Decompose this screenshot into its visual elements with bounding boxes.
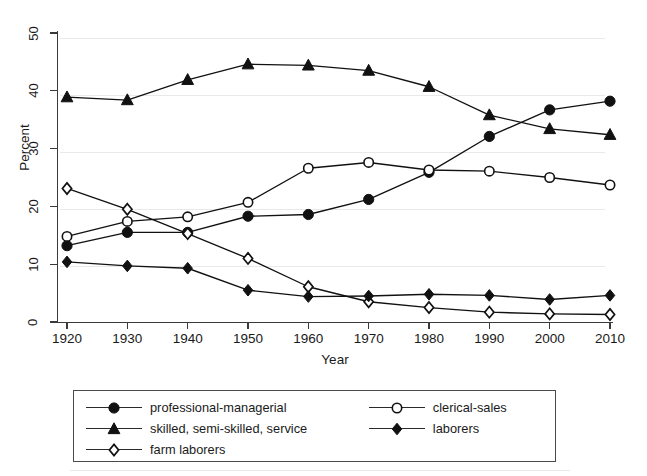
legend-item[interactable]: clerical-sales xyxy=(363,397,555,418)
data-point-filled-circle xyxy=(62,241,72,251)
legend-grid: professional-managerialclerical-salesski… xyxy=(74,391,555,461)
data-point-filled-circle xyxy=(484,131,494,141)
data-point-open-diamond xyxy=(62,183,71,194)
chart-figure: 01020304050 1920193019401950196019701980… xyxy=(0,0,647,476)
data-point-open-circle xyxy=(364,158,373,167)
legend-marker-filled-circle xyxy=(105,400,123,416)
legend-key-marker xyxy=(105,400,123,416)
data-point-open-diamond xyxy=(109,444,118,455)
legend-label: skilled, semi-skilled, service xyxy=(144,421,307,436)
data-point-open-circle xyxy=(605,180,614,189)
legend-key-marker xyxy=(388,400,406,416)
series-3 xyxy=(62,158,614,241)
data-point-filled-circle xyxy=(243,211,253,221)
data-point-open-diamond xyxy=(605,309,614,320)
data-point-open-diamond xyxy=(243,253,252,264)
data-point-open-circle xyxy=(485,166,494,175)
legend-label: professional-managerial xyxy=(144,400,287,415)
data-point-filled-triangle xyxy=(61,91,73,102)
data-point-open-diamond xyxy=(545,308,554,319)
legend-marker-open-diamond xyxy=(105,442,123,458)
data-point-open-diamond xyxy=(424,302,433,313)
data-point-filled-diamond xyxy=(485,290,495,302)
series-line xyxy=(67,101,610,246)
data-point-filled-circle xyxy=(303,209,313,219)
data-point-filled-circle xyxy=(545,105,555,115)
data-point-filled-diamond xyxy=(243,284,253,296)
legend-key xyxy=(84,421,144,437)
data-point-filled-triangle xyxy=(242,58,254,69)
data-point-filled-triangle xyxy=(483,109,495,120)
series-1 xyxy=(61,58,616,139)
series-2 xyxy=(62,183,614,320)
data-point-filled-triangle xyxy=(302,59,314,70)
data-point-filled-diamond xyxy=(392,423,402,435)
series-line xyxy=(67,64,610,135)
legend-marker-filled-diamond xyxy=(388,421,406,437)
data-point-filled-diamond xyxy=(424,288,434,300)
legend-item[interactable]: farm laborers xyxy=(74,439,363,460)
data-point-open-circle xyxy=(392,403,401,412)
legend-key xyxy=(84,400,144,416)
chart-legend: professional-managerialclerical-salesski… xyxy=(73,390,556,462)
legend-key xyxy=(367,400,427,416)
data-point-filled-circle xyxy=(109,402,119,412)
legend-row: farm laborers xyxy=(74,439,555,460)
legend-key-marker xyxy=(105,442,123,458)
legend-item[interactable]: laborers xyxy=(363,418,555,439)
data-point-open-circle xyxy=(183,212,192,221)
data-point-filled-triangle xyxy=(108,422,120,433)
series-0 xyxy=(62,96,615,251)
data-point-open-circle xyxy=(424,165,433,174)
legend-key xyxy=(367,421,427,437)
data-point-filled-diamond xyxy=(304,291,314,303)
legend-key xyxy=(84,442,144,458)
data-point-filled-diamond xyxy=(605,290,615,302)
legend-row: professional-managerialclerical-sales xyxy=(74,397,555,418)
data-point-open-circle xyxy=(304,164,313,173)
data-point-open-diamond xyxy=(123,204,132,215)
legend-key-marker xyxy=(388,421,406,437)
legend-marker-open-circle xyxy=(388,400,406,416)
data-point-filled-diamond xyxy=(545,294,555,306)
legend-label: clerical-sales xyxy=(427,400,507,415)
legend-row: skilled, semi-skilled, servicelaborers xyxy=(74,418,555,439)
legend-label: farm laborers xyxy=(144,442,225,457)
legend-label: laborers xyxy=(427,421,479,436)
data-point-open-circle xyxy=(123,217,132,226)
series-4 xyxy=(62,256,615,305)
legend-marker-filled-triangle xyxy=(105,421,123,437)
data-point-open-circle xyxy=(243,198,252,207)
data-point-filled-diamond xyxy=(123,260,133,272)
series-line xyxy=(67,162,610,236)
data-point-open-circle xyxy=(545,173,554,182)
data-point-filled-diamond xyxy=(62,256,72,268)
legend-item[interactable]: professional-managerial xyxy=(74,397,363,418)
data-point-open-circle xyxy=(62,232,71,241)
data-point-filled-circle xyxy=(364,194,374,204)
data-point-filled-circle xyxy=(122,227,132,237)
data-point-open-diamond xyxy=(485,307,494,318)
legend-item[interactable]: skilled, semi-skilled, service xyxy=(74,418,363,439)
data-point-filled-circle xyxy=(605,96,615,106)
legend-key-marker xyxy=(105,421,123,437)
data-point-filled-diamond xyxy=(183,262,193,274)
